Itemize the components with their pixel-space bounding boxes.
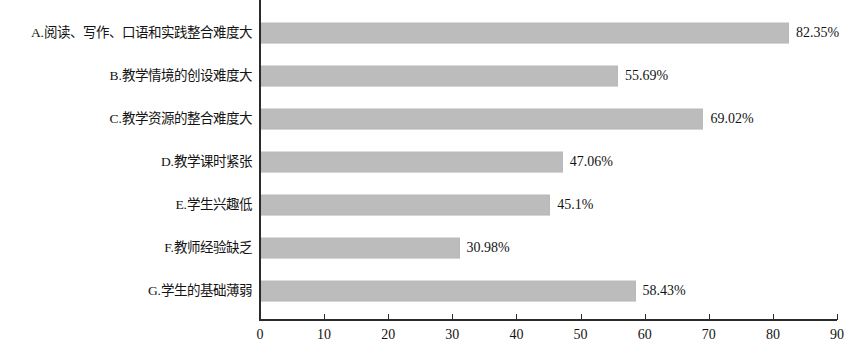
bar xyxy=(261,280,636,301)
bar xyxy=(261,194,550,215)
x-axis-tick-label: 20 xyxy=(381,327,395,343)
x-axis-tick xyxy=(452,314,453,320)
x-axis-tick xyxy=(773,314,774,320)
x-axis-tick xyxy=(516,314,517,320)
x-axis-tick xyxy=(837,314,838,320)
chart-row: D.教学课时紧张47.06% xyxy=(0,140,847,183)
x-axis-tick xyxy=(324,314,325,320)
bar-chart: A.阅读、写作、口语和实践整合难度大82.35%B.教学情境的创设难度大55.6… xyxy=(0,0,847,349)
x-axis-tick xyxy=(581,314,582,320)
chart-row: E.学生兴趣低45.1% xyxy=(0,183,847,226)
x-axis-tick xyxy=(388,314,389,320)
category-label: A.阅读、写作、口语和实践整合难度大 xyxy=(0,25,252,41)
chart-row: B.教学情境的创设难度大55.69% xyxy=(0,54,847,97)
category-label: B.教学情境的创设难度大 xyxy=(0,68,252,84)
bar-value-label: 45.1% xyxy=(557,197,593,213)
chart-row: A.阅读、写作、口语和实践整合难度大82.35% xyxy=(0,11,847,54)
bar-value-label: 47.06% xyxy=(570,154,613,170)
x-axis-tick-label: 80 xyxy=(766,327,780,343)
x-axis-tick-label: 10 xyxy=(317,327,331,343)
x-axis-tick-label: 90 xyxy=(830,327,844,343)
bar-value-label: 82.35% xyxy=(796,25,839,41)
bar-group: 69.02% xyxy=(261,108,703,129)
x-axis-tick-label: 50 xyxy=(574,327,588,343)
bar-value-label: 30.98% xyxy=(467,240,510,256)
x-axis-tick-label: 60 xyxy=(638,327,652,343)
x-axis-tick-label: 70 xyxy=(702,327,716,343)
y-axis-line xyxy=(259,0,261,321)
category-label: F.教师经验缺乏 xyxy=(0,240,252,256)
bar xyxy=(261,151,563,172)
bar xyxy=(261,22,789,43)
category-label: C.教学资源的整合难度大 xyxy=(0,111,252,127)
chart-row: F.教师经验缺乏30.98% xyxy=(0,226,847,269)
category-label: G.学生的基础薄弱 xyxy=(0,283,252,299)
bar-group: 45.1% xyxy=(261,194,550,215)
bar-value-label: 69.02% xyxy=(710,111,753,127)
bar xyxy=(261,237,460,258)
x-axis-tick-label: 0 xyxy=(257,327,264,343)
x-axis-tick xyxy=(709,314,710,320)
category-label: D.教学课时紧张 xyxy=(0,154,252,170)
bar-group: 30.98% xyxy=(261,237,460,258)
category-label: E.学生兴趣低 xyxy=(0,197,252,213)
bar-group: 47.06% xyxy=(261,151,563,172)
bar-group: 58.43% xyxy=(261,280,636,301)
x-axis-tick xyxy=(645,314,646,320)
bar xyxy=(261,108,703,129)
bar-value-label: 55.69% xyxy=(625,68,668,84)
x-axis-tick-label: 40 xyxy=(509,327,523,343)
bar-group: 55.69% xyxy=(261,65,618,86)
x-axis-ticks xyxy=(260,313,837,320)
x-axis-tick-label: 30 xyxy=(445,327,459,343)
bar-group: 82.35% xyxy=(261,22,789,43)
bar xyxy=(261,65,618,86)
chart-row: C.教学资源的整合难度大69.02% xyxy=(0,97,847,140)
chart-row: G.学生的基础薄弱58.43% xyxy=(0,269,847,312)
bar-value-label: 58.43% xyxy=(643,283,686,299)
